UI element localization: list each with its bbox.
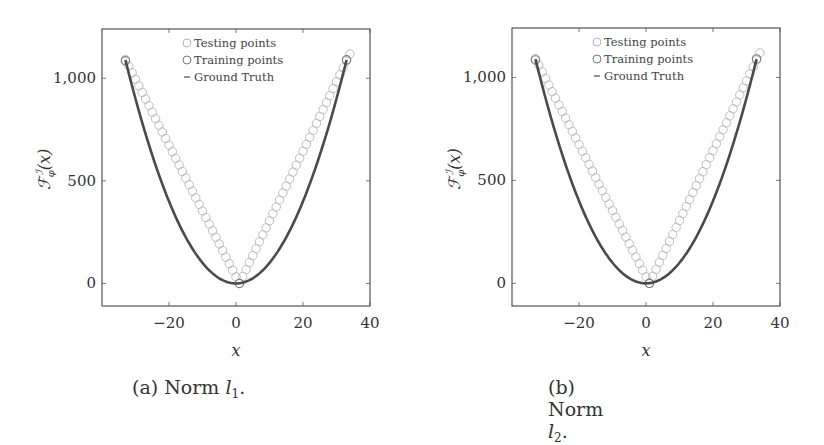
series-training-points: [531, 55, 761, 288]
y-tick-label: 0: [496, 274, 506, 292]
caption-sub: 2: [554, 431, 562, 445]
x-tick-label: 0: [641, 314, 651, 332]
x-tick-label: 20: [703, 314, 722, 332]
legend-label: Ground Truth: [604, 69, 685, 83]
legend-label: Training points: [604, 52, 693, 66]
series-ground-truth: [535, 59, 756, 283]
chart-b: −200204005001,000xℱφℐ(x)Testing pointsTr…: [0, 0, 824, 370]
legend-marker-icon: [593, 55, 601, 63]
y-tick-label: 1,000: [463, 68, 506, 86]
y-axis-label: ℱφℐ(x): [444, 148, 466, 190]
x-tick-label: −20: [563, 314, 595, 332]
caption-prefix: (b) Norm: [548, 376, 603, 420]
x-axis-label: x: [641, 341, 650, 360]
x-tick-label: 40: [770, 314, 789, 332]
legend-label: Testing points: [604, 35, 686, 49]
panel-b: −200204005001,000xℱφℐ(x)Testing pointsTr…: [0, 0, 412, 424]
legend-marker-icon: [593, 38, 601, 46]
caption-suffix: .: [562, 420, 568, 442]
legend: Testing pointsTraining pointsGround Trut…: [593, 35, 693, 83]
y-tick-label: 500: [477, 171, 506, 189]
caption-b: (b) Norm l2.: [548, 376, 603, 442]
